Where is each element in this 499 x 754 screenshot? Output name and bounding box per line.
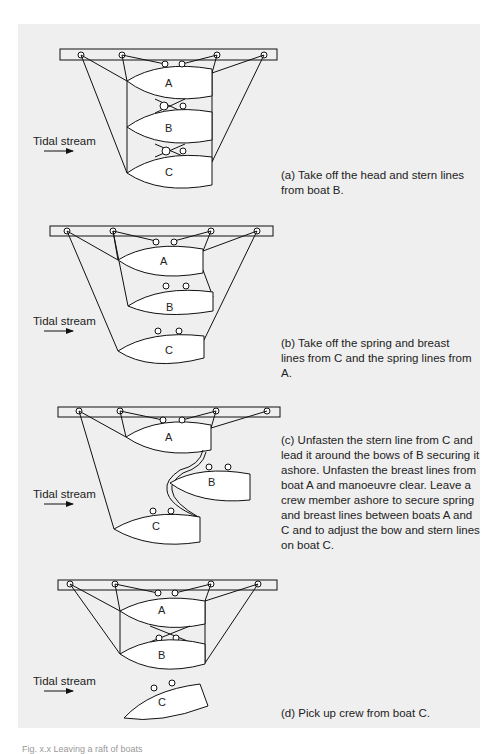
caption-d: (d) Pick up crew from boat C. xyxy=(281,706,476,721)
boat-label: C xyxy=(165,166,173,178)
boat-label: C xyxy=(152,520,160,532)
figure-caption: Fig. x.x Leaving a raft of boats xyxy=(22,744,143,754)
panel-d-diagram xyxy=(58,580,277,720)
boat-label: B xyxy=(158,649,165,661)
panel-b-diagram xyxy=(50,226,273,364)
tidal-stream-label: Tidal stream xyxy=(33,315,96,327)
panel-c-diagram xyxy=(58,407,280,544)
caption-c: (c) Unfasten the stern line from C and l… xyxy=(281,433,481,553)
caption-a: (a) Take off the head and stern lines fr… xyxy=(281,168,476,198)
boat-label: A xyxy=(165,431,173,443)
boat-label: B xyxy=(166,301,173,313)
boat-label: C xyxy=(158,696,166,708)
tidal-stream-label: Tidal stream xyxy=(33,135,96,147)
tidal-stream-label: Tidal stream xyxy=(33,675,96,687)
tidal-stream-label: Tidal stream xyxy=(33,488,96,500)
boat-label: A xyxy=(158,604,166,616)
caption-b: (b) Take off the spring and breast lines… xyxy=(281,336,476,381)
boat-label: A xyxy=(165,77,173,89)
boat-label: A xyxy=(160,255,168,267)
boat-label: C xyxy=(165,344,173,356)
boat-label: B xyxy=(165,122,172,134)
boat-label: B xyxy=(208,476,215,488)
